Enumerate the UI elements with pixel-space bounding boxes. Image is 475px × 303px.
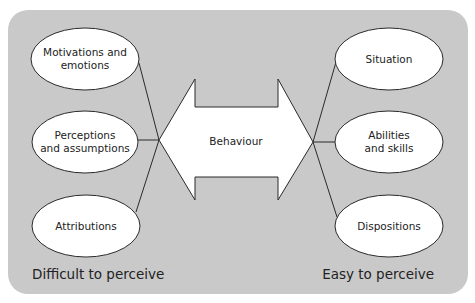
node-motivations-and-emotions: Motivations and emotions [31,28,139,90]
behaviour-label: Behaviour [209,135,263,147]
node-abilities-and-skills: Abilities and skills [335,111,443,173]
node-perceptions-and-assumptions: Perceptions and assumptions [32,111,138,173]
node-label-line: Perceptions [55,129,116,141]
node-label-line: Dispositions [357,220,421,232]
node-label-line: Attributions [55,220,116,232]
node-label-line: emotions [61,59,110,71]
behaviour-diagram: Behaviour Motivations and emotions Perce… [0,0,475,303]
node-situation: Situation [335,28,443,90]
node-label-line: and skills [365,142,414,154]
node-label-line: and assumptions [40,142,130,154]
node-attributions: Attributions [32,195,140,257]
node-label-line: Situation [366,53,413,65]
left-caption: Difficult to perceive [32,266,164,282]
node-label-line: Motivations and [43,46,127,58]
node-label-line: Abilities [368,129,410,141]
right-caption: Easy to perceive [322,266,434,282]
node-dispositions: Dispositions [335,195,443,257]
